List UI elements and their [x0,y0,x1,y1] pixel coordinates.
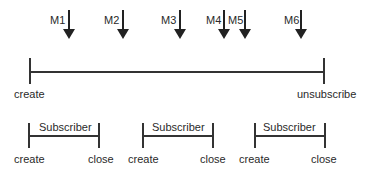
timeline-line [30,71,324,73]
timeline-end-tick [323,58,325,84]
subscriber-label: Subscriber [152,121,205,133]
timeline-end-label: unsubscribe [297,88,356,100]
subscriber-line [29,135,99,137]
subscriber-create-label: create [128,153,159,165]
subscriber-end-tick [212,123,214,148]
down-arrow-icon [295,10,307,40]
subscriber-close-label: close [200,153,226,165]
down-arrow-icon [174,10,186,40]
down-arrow-icon [63,10,75,40]
subscriber-create-label: create [14,153,45,165]
subscriber-line [143,135,213,137]
subscriber-end-tick [98,123,100,148]
subscriber-label: Subscriber [263,121,316,133]
timeline-start-label: create [14,88,45,100]
down-arrow-icon [117,10,129,40]
subscriber-create-label: create [239,153,270,165]
subscriber-label: Subscriber [39,121,92,133]
subscriber-close-label: close [88,153,114,165]
down-arrow-icon [239,10,251,40]
subscriber-line [255,135,325,137]
subscriber-end-tick [324,123,326,148]
subscriber-close-label: close [311,153,337,165]
